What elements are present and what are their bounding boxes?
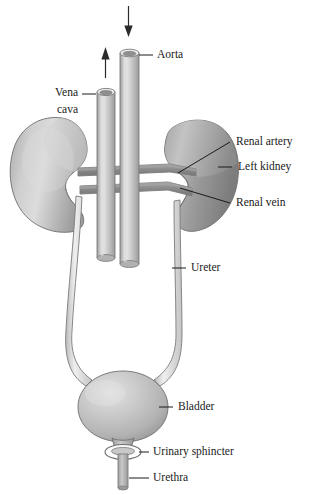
- urethra: [118, 454, 128, 490]
- label-aorta: Aorta: [157, 48, 183, 60]
- anatomy-illustration: Aorta Vena cava Renal artery Left kidney…: [0, 0, 309, 495]
- label-vena-cava-line2: cava: [57, 103, 78, 115]
- label-urinary-sphincter: Urinary sphincter: [153, 445, 234, 458]
- label-bladder: Bladder: [178, 400, 215, 412]
- aorta: [120, 49, 139, 267]
- label-renal-artery: Renal artery: [236, 135, 293, 148]
- label-ureter: Ureter: [191, 261, 221, 273]
- label-urethra: Urethra: [153, 471, 188, 483]
- urinary-system-diagram: Aorta Vena cava Renal artery Left kidney…: [0, 0, 309, 495]
- label-vena-cava-line1: Vena: [55, 86, 78, 98]
- label-left-kidney: Left kidney: [238, 160, 292, 173]
- vena-cava: [97, 88, 115, 261]
- label-renal-vein: Renal vein: [236, 196, 286, 208]
